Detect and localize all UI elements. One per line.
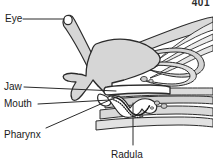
jaw	[104, 85, 170, 95]
anatomy-figure: 401	[0, 0, 213, 163]
label-pharynx: Pharynx	[4, 129, 41, 140]
label-mouth: Mouth	[4, 98, 32, 109]
label-eye: Eye	[5, 13, 22, 24]
eye-spot-icon	[64, 15, 72, 24]
label-radula: Radula	[111, 149, 143, 160]
label-jaw: Jaw	[4, 81, 22, 92]
